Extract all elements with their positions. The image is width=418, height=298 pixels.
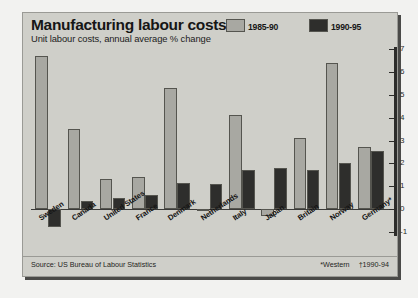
legend-label-1985-90: 1985-90 xyxy=(248,22,278,32)
bar-italy-1990-95 xyxy=(242,170,255,209)
bar-canada-1985-90 xyxy=(68,129,81,209)
chart-title: Manufacturing labour costs xyxy=(31,16,226,34)
source-note: Source: US Bureau of Labour Statistics xyxy=(31,260,156,269)
y-axis-line xyxy=(394,47,397,236)
y-tick-3 xyxy=(389,141,394,142)
legend-swatch-1985-90 xyxy=(226,19,245,32)
y-tick-label-5: 5 xyxy=(400,90,404,99)
y-tick-label-7: 7 xyxy=(400,44,404,53)
y-tick-label-1: 1 xyxy=(400,181,404,190)
legend-swatch-1990-95 xyxy=(309,19,328,32)
legend-item-1990-95: 1990-95 xyxy=(309,17,361,30)
bar-united-states-1985-90 xyxy=(100,179,113,209)
y-tick-4 xyxy=(389,118,394,119)
bar-britain-1985-90 xyxy=(294,138,307,209)
chart-panel: Manufacturing labour costs Unit labour c… xyxy=(22,12,398,277)
legend-label-1990-95: 1990-95 xyxy=(331,22,361,32)
y-tick-6 xyxy=(389,72,394,73)
y-tick-label-4: 4 xyxy=(400,113,404,122)
y-tick-2 xyxy=(389,163,394,164)
y-tick-label-6: 6 xyxy=(400,67,404,76)
y-tick-7 xyxy=(389,49,394,50)
bar-denmark-1985-90 xyxy=(164,88,177,209)
chart-figure: Manufacturing labour costs Unit labour c… xyxy=(0,0,418,298)
y-tick-label--1: -1 xyxy=(400,227,407,236)
y-tick-label-3: 3 xyxy=(400,136,404,145)
footer-divider xyxy=(23,256,397,257)
y-tick-1 xyxy=(389,186,394,187)
footnote-western: *Western xyxy=(320,260,349,269)
legend-item-1985-90: 1985-90 xyxy=(226,17,278,30)
chart-header: Manufacturing labour costs Unit labour c… xyxy=(23,13,397,47)
bar-norway-1985-90 xyxy=(326,63,339,209)
y-tick-0 xyxy=(389,209,394,210)
y-tick-label-0: 0 xyxy=(400,204,404,213)
bar-sweden-1985-90 xyxy=(35,56,48,209)
chart-subtitle: Unit labour costs, annual average % chan… xyxy=(31,33,211,44)
y-tick-label-2: 2 xyxy=(400,158,404,167)
footnote-years: †1990-94 xyxy=(359,260,389,269)
footnotes: *Western†1990-94 xyxy=(320,260,389,269)
y-tick-5 xyxy=(389,95,394,96)
y-tick--1 xyxy=(389,232,394,233)
bar-germany-1985-90 xyxy=(358,147,371,209)
